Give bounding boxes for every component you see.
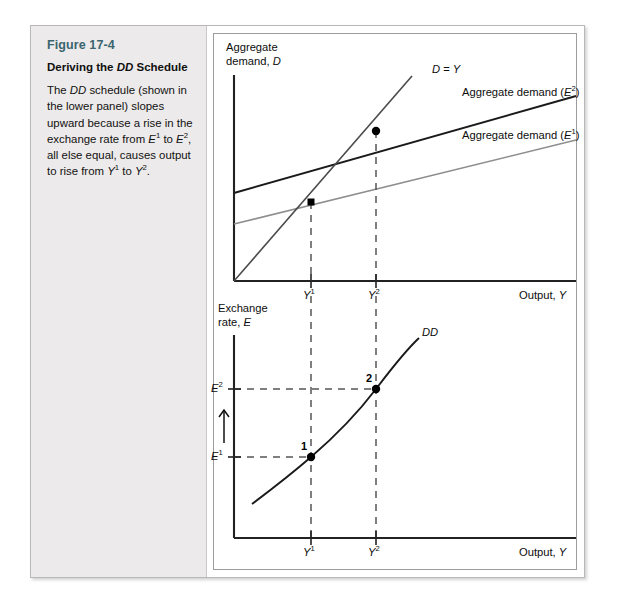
caption-e2-italic: E bbox=[176, 133, 184, 145]
caption-y2-sup: 2 bbox=[143, 163, 147, 172]
caption-y1-italic: Y bbox=[107, 165, 115, 177]
lower-xtick-label-y2: Y2 bbox=[368, 545, 380, 559]
caption-e1-sup: 1 bbox=[156, 131, 160, 140]
caption-e2-sup: 2 bbox=[184, 131, 188, 140]
figure-title-part-1: Deriving the bbox=[47, 61, 117, 73]
figure-caption-body: The DD schedule (shown in the lower pane… bbox=[47, 82, 193, 179]
dd-curve-label: DD bbox=[422, 325, 438, 339]
caption-dd-italic: DD bbox=[70, 84, 86, 96]
aggregate-demand-e1-label: Aggregate demand (E1) bbox=[462, 128, 579, 142]
lower-y-axis-label-line1: Exchange bbox=[218, 302, 268, 314]
caption-y1-sup: 1 bbox=[115, 163, 119, 172]
upper-y-axis-label-line1: Aggregate bbox=[226, 41, 278, 53]
figure-caption-panel: Figure 17-4 Deriving the DD Schedule The… bbox=[31, 26, 206, 577]
upper-xtick-label-y1: Y1 bbox=[303, 288, 315, 302]
upper-xtick-label-y2: Y2 bbox=[368, 288, 380, 302]
caption-y2-italic: Y bbox=[135, 165, 143, 177]
upper-y-axis-label: Aggregatedemand, D bbox=[226, 40, 281, 68]
caption-e1-italic: E bbox=[148, 133, 156, 145]
lower-ytick-label-e1: E1 bbox=[211, 449, 223, 463]
caption-text-block: Figure 17-4 Deriving the DD Schedule The… bbox=[47, 39, 193, 179]
lower-y-axis-label: Exchangerate, E bbox=[218, 301, 268, 329]
aggregate-demand-e2-label: Aggregate demand (E2) bbox=[462, 85, 579, 99]
forty-five-line-label: D = Y bbox=[432, 62, 460, 76]
upper-x-axis-label: Output, Y bbox=[519, 288, 566, 302]
figure-title-part-2: Schedule bbox=[133, 61, 187, 73]
figure-number: Figure 17-4 bbox=[47, 39, 193, 53]
figure-page: Figure 17-4 Deriving the DD Schedule The… bbox=[0, 0, 617, 609]
dd-point-1-label: 1 bbox=[301, 440, 307, 454]
figure-title-italic: DD bbox=[117, 61, 134, 73]
dd-point-2-label: 2 bbox=[366, 372, 372, 386]
lower-xtick-label-y1: Y1 bbox=[303, 545, 315, 559]
figure-title: Deriving the DD Schedule bbox=[47, 60, 193, 74]
lower-x-axis-label: Output, Y bbox=[519, 545, 566, 559]
lower-ytick-label-e2: E2 bbox=[211, 381, 223, 395]
